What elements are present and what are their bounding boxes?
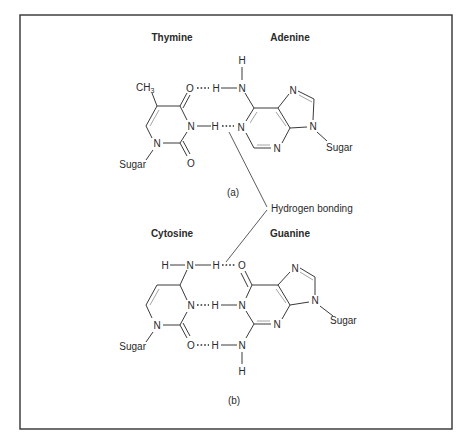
adenine-structure: H N N N N N Sugar	[237, 55, 353, 154]
guanine-h2: H	[211, 340, 218, 351]
adenine-n3: N	[273, 143, 280, 154]
cytosine-n4: N	[186, 260, 193, 271]
cytosine-h-left: H	[161, 260, 168, 271]
guanine-sugar: Sugar	[330, 315, 357, 326]
guanine-n1: N	[238, 300, 245, 311]
guanine-h-bottom: H	[238, 366, 245, 377]
thymine-title: Thymine	[151, 32, 193, 43]
panel-a: Thymine Adenine CH3 O N N	[119, 32, 353, 198]
thymine-o4: O	[186, 83, 194, 94]
base-pairing-diagram: Thymine Adenine CH3 O N N	[0, 0, 470, 446]
cytosine-sugar: Sugar	[119, 341, 146, 352]
guanine-n7: N	[291, 263, 298, 274]
adenine-n1: N	[237, 122, 244, 133]
thymine-sugar: Sugar	[119, 159, 146, 170]
guanine-title: Guanine	[270, 228, 310, 239]
thymine-methyl: CH3	[136, 82, 154, 94]
cytosine-title: Cytosine	[151, 228, 194, 239]
cytosine-o2: O	[187, 340, 195, 351]
panel-b: Cytosine Guanine H N H N N O Sugar	[119, 228, 357, 406]
cytosine-n3: N	[187, 300, 194, 311]
adenine-sugar: Sugar	[326, 142, 353, 153]
figure-frame	[20, 15, 452, 429]
panel-a-label: (a)	[227, 187, 239, 198]
hydrogen-bonding-label: Hydrogen bonding	[271, 203, 353, 214]
adenine-n6: N	[238, 83, 245, 94]
panel-b-label: (b)	[228, 395, 240, 406]
thymine-n1: N	[153, 138, 160, 149]
thymine-h3: H	[211, 121, 218, 132]
guanine-structure: O H H N N N	[211, 260, 357, 377]
guanine-n2: N	[238, 340, 245, 351]
thymine-structure: CH3 O N N O Sugar	[119, 82, 211, 170]
guanine-o6: O	[238, 260, 246, 271]
guanine-n9: N	[311, 295, 318, 306]
adenine-n9: N	[309, 121, 316, 132]
cytosine-h4: H	[212, 260, 219, 271]
adenine-n7: N	[289, 85, 296, 96]
thymine-o2: O	[187, 158, 195, 169]
guanine-h1: H	[211, 300, 218, 311]
thymine-n3: N	[187, 121, 194, 132]
adenine-title: Adenine	[270, 32, 310, 43]
adenine-h-top: H	[238, 55, 245, 66]
cytosine-n1: N	[153, 320, 160, 331]
guanine-n3: N	[273, 319, 280, 330]
adenine-h6: H	[212, 83, 219, 94]
